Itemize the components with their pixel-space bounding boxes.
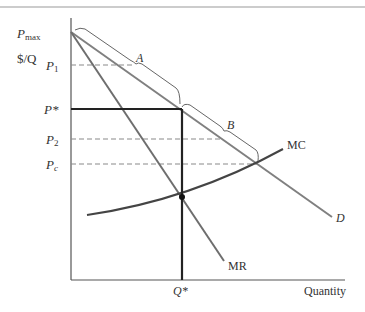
bracket-b (182, 104, 258, 161)
pc-label: Pc (46, 158, 58, 173)
y-axis-label: $/Q (17, 52, 37, 65)
bracket-a (75, 28, 180, 104)
x-axis-label: Quantity (304, 285, 346, 297)
marginal-cost-curve (87, 149, 283, 215)
bracket-a-label: A (136, 52, 143, 64)
marginal-revenue-curve (71, 32, 224, 261)
mc-label: MC (287, 139, 306, 151)
pmax-label: Pmax (17, 27, 40, 42)
demand-label: D (336, 212, 345, 224)
monopoly-pricing-diagram (0, 0, 365, 312)
p2-label: P2 (46, 133, 58, 148)
pstar-label: P* (44, 103, 58, 116)
p1-label: P1 (46, 59, 58, 74)
demand-curve (71, 32, 332, 217)
mr-label: MR (228, 260, 247, 272)
bracket-b-label: B (227, 119, 234, 131)
qstar-label: Q* (173, 285, 188, 297)
mr-mc-intersection-point (179, 194, 185, 200)
